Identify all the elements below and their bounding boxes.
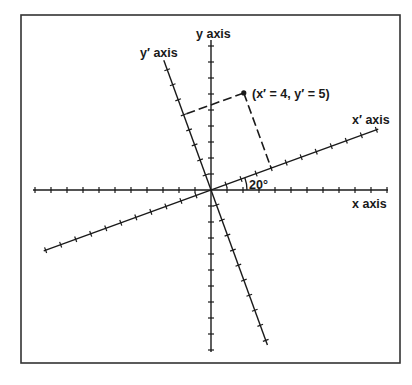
angle-label: 20° — [249, 178, 268, 192]
y-prime-axis-label: y′ axis — [140, 46, 178, 60]
x-prime-axis-label: x′ axis — [352, 113, 390, 127]
y-axis-label: y axis — [196, 27, 231, 41]
dashed-line — [184, 93, 244, 115]
angle-arc — [245, 178, 247, 190]
projection-dashed-lines — [184, 93, 272, 168]
point-coordinate-label: (x′ = 4, y′ = 5) — [252, 87, 330, 101]
dashed-line — [244, 93, 271, 168]
rotated-coordinate-axes-diagram: y axis y′ axis x′ axis x axis (x′ = 4, y… — [0, 0, 412, 385]
point-marker — [241, 90, 246, 95]
x-axis-label: x axis — [352, 197, 387, 211]
